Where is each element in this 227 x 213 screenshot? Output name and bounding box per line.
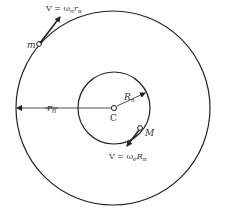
small-mass-label: m [27,40,36,50]
inner-radius-label: Rn [123,92,135,103]
outer-radius-label: rn [47,102,57,115]
center-label: C [110,113,117,123]
large-mass-velocity-arrow [127,130,139,146]
small-mass-velocity-arrow [40,17,60,43]
center-point [111,105,116,110]
large-mass-label: M [144,128,155,138]
small-mass-velocity-label: V = ωnrn [45,4,82,14]
large-mass-velocity-label: V = ωeRn [108,152,147,162]
orbit-diagram: rn Rn C m V = ωnrn M V = ωeRn [0,0,227,213]
